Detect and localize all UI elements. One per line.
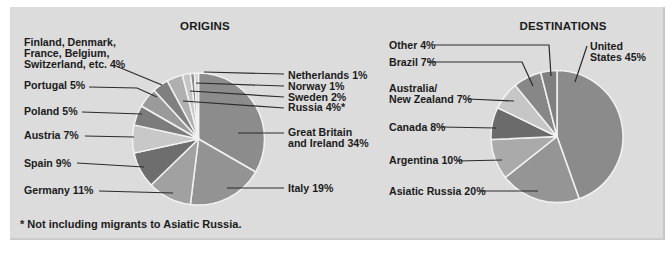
- figure-page: ORIGINS DESTINATIONS Great Britainand Ir…: [0, 0, 672, 261]
- leader-line-other: [435, 45, 551, 76]
- leader-line-finland-denmark-france-belgium-switzerland-etc: [116, 66, 162, 85]
- leader-line-poland: [82, 112, 142, 114]
- leader-line-spain: [77, 163, 144, 167]
- leader-line-brazil: [427, 62, 533, 86]
- footnote: * Not including migrants to Asiatic Russ…: [20, 218, 241, 230]
- leader-line-canada: [441, 127, 496, 128]
- origins-chart-title: ORIGINS: [160, 20, 250, 32]
- destinations-chart-title: DESTINATIONS: [508, 20, 618, 32]
- leader-line-netherlands: [204, 72, 284, 74]
- leader-line-portugal: [89, 87, 157, 97]
- leader-line-austria: [85, 136, 134, 137]
